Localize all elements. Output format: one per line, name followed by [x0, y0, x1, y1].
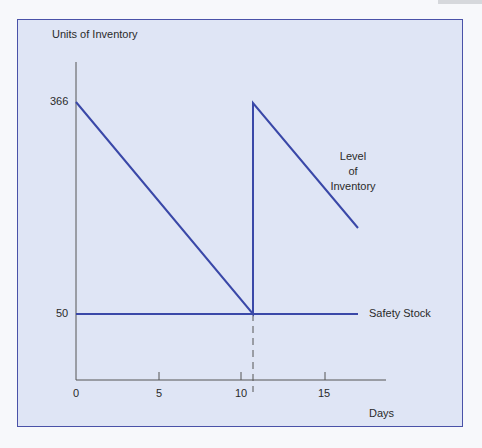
level-label-line1: Level: [333, 149, 373, 164]
x-axis-label: Days: [369, 407, 394, 419]
inventory-level-line: [76, 102, 358, 314]
y-axis-label: Units of Inventory: [52, 28, 138, 40]
x-tick-label-5: 5: [156, 387, 162, 399]
x-tick-label-15: 15: [318, 387, 330, 399]
x-tick-label-0: 0: [73, 387, 79, 399]
level-label-line3: Inventory: [319, 179, 387, 194]
x-tick-label-10: 10: [235, 387, 247, 399]
y-tick-366: 366: [50, 95, 68, 107]
safety-stock-label: Safety Stock: [369, 307, 431, 319]
level-of-inventory-label: Level of Inventory: [333, 149, 373, 194]
chart-plot: [0, 0, 482, 448]
y-tick-50: 50: [56, 307, 68, 319]
level-label-line2: of: [333, 164, 373, 179]
